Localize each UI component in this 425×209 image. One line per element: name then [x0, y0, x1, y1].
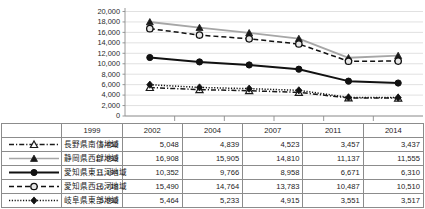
cell-s0-2002: 5,048 — [122, 138, 182, 152]
cell-s0-2014: 3,437 — [363, 138, 423, 152]
legend-cell-1[interactable]: 静岡県西部地域 — [2, 152, 62, 166]
data-point-s2-1999 — [147, 54, 153, 60]
data-point-s3-1999 — [147, 25, 153, 31]
legend-symbol-filled-circle — [7, 166, 61, 179]
table-corner-cell — [2, 124, 62, 138]
column-header-year-2011: 2011 — [303, 124, 363, 138]
table-row: 長野県南信地域5,4505,0484,8394,5233,4573,437 — [2, 138, 424, 152]
cell-s4-2007: 4,915 — [243, 194, 303, 208]
cell-s4-2014: 3,517 — [363, 194, 423, 208]
column-header-year-2014: 2014 — [363, 124, 423, 138]
cell-s1-2004: 15,905 — [182, 152, 242, 166]
data-point-s3-2014 — [395, 58, 401, 64]
cell-s4-2004: 5,233 — [182, 194, 242, 208]
table-header-row: 199920022004200720112014 — [2, 124, 424, 138]
cell-s2-2011: 6,671 — [303, 166, 363, 180]
legend-entry: 長野県南信地域 — [5, 138, 58, 151]
legend-marker — [31, 169, 37, 175]
cell-s3-2002: 15,490 — [122, 180, 182, 194]
cell-s1-2002: 16,908 — [122, 152, 182, 166]
data-point-s3-2011 — [345, 58, 351, 64]
cell-s2-2007: 8,958 — [243, 166, 303, 180]
table-row: 静岡県西部地域17,99916,90815,90514,81011,13711,… — [2, 152, 424, 166]
table-row: 愛知県西三河地域16,71815,49014,76413,78310,48710… — [2, 180, 424, 194]
legend-entry: 岐阜県東部地域 — [5, 194, 58, 207]
cell-s4-2002: 5,464 — [122, 194, 182, 208]
cell-s2-2014: 6,310 — [363, 166, 423, 180]
legend-symbol-open-circle — [7, 180, 61, 193]
cell-s0-2007: 4,523 — [243, 138, 303, 152]
legend-entry: 愛知県西三河地域 — [5, 180, 58, 193]
legend-cell-3[interactable]: 愛知県西三河地域 — [2, 180, 62, 194]
chart-figure: 20,00018,00016,00014,00012,00010,0008,00… — [0, 0, 425, 209]
legend-marker — [31, 183, 37, 189]
cell-s3-2014: 10,510 — [363, 180, 423, 194]
column-header-year-2004: 2004 — [182, 124, 242, 138]
cell-s1-2007: 14,810 — [243, 152, 303, 166]
data-point-s2-2011 — [345, 78, 351, 84]
legend-cell-4[interactable]: 岐阜県東部地域 — [2, 194, 62, 208]
column-header-year-2007: 2007 — [243, 124, 303, 138]
data-point-s2-2014 — [395, 80, 401, 86]
data-point-s3-2007 — [296, 41, 302, 47]
cell-s1-2014: 11,555 — [363, 152, 423, 166]
data-point-s3-2002 — [196, 32, 202, 38]
data-point-s2-2004 — [246, 62, 252, 68]
legend-symbol-open-triangle — [7, 138, 61, 151]
data-point-s3-2004 — [246, 36, 252, 42]
column-header-year-1999: 1999 — [62, 124, 122, 138]
cell-s0-2011: 3,457 — [303, 138, 363, 152]
cell-s0-2004: 4,839 — [182, 138, 242, 152]
cell-s1-2011: 11,137 — [303, 152, 363, 166]
table-row: 岐阜県東部地域5,9905,4645,2334,9153,5513,517 — [2, 194, 424, 208]
plot-region: 20,00018,00016,00014,00012,00010,0008,00… — [0, 0, 425, 124]
table-row: 愛知県東三河地域11,19410,3529,7668,9586,6716,310 — [2, 166, 424, 180]
cell-s3-2007: 13,783 — [243, 180, 303, 194]
column-header-year-2002: 2002 — [122, 124, 182, 138]
series-data-table: 199920022004200720112014長野県南信地域5,4505,04… — [1, 123, 424, 208]
legend-symbol-filled-diamond — [7, 194, 61, 207]
legend-cell-2[interactable]: 愛知県東三河地域 — [2, 166, 62, 180]
data-point-s2-2007 — [296, 66, 302, 72]
plot-canvas — [0, 0, 425, 124]
legend-entry: 静岡県西部地域 — [5, 152, 58, 165]
cell-s4-2011: 3,551 — [303, 194, 363, 208]
data-table-region: 199920022004200720112014長野県南信地域5,4505,04… — [0, 123, 425, 209]
cell-s3-2004: 14,764 — [182, 180, 242, 194]
legend-cell-0[interactable]: 長野県南信地域 — [2, 138, 62, 152]
cell-s3-2011: 10,487 — [303, 180, 363, 194]
cell-s2-2002: 10,352 — [122, 166, 182, 180]
legend-marker — [31, 197, 37, 204]
cell-s2-2004: 9,766 — [182, 166, 242, 180]
legend-symbol-filled-triangle — [7, 152, 61, 165]
legend-entry: 愛知県東三河地域 — [5, 166, 58, 179]
data-point-s2-2002 — [196, 59, 202, 65]
